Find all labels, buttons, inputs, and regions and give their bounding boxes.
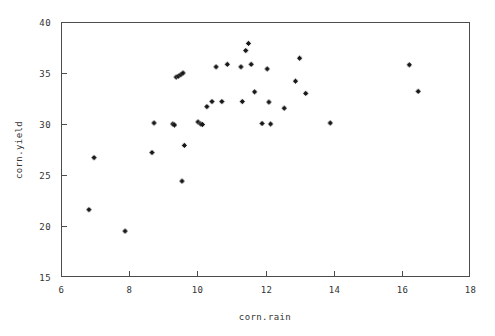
data-point (252, 89, 257, 94)
plot-canvas: 152025303540 681012141618 corn.rain corn… (0, 0, 495, 336)
data-point (407, 62, 412, 67)
data-point (182, 143, 187, 148)
data-point (172, 122, 177, 127)
data-point (303, 91, 308, 96)
y-tick-label: 40 (39, 18, 51, 28)
x-tick-label: 6 (59, 285, 65, 295)
data-point (293, 79, 298, 84)
x-tick-label: 8 (127, 285, 133, 295)
data-point (91, 155, 96, 160)
data-point (213, 64, 218, 69)
y-tick-label: 20 (39, 222, 51, 232)
y-axis-title: corn.yield (14, 121, 24, 179)
x-tick-label: 12 (261, 285, 273, 295)
data-point (416, 89, 421, 94)
data-point (243, 48, 248, 53)
data-point (204, 104, 209, 109)
data-point (149, 150, 154, 155)
plot-frame (62, 23, 470, 277)
y-tick-label: 35 (39, 69, 51, 79)
x-axis-tick-labels: 681012141618 (59, 285, 477, 295)
y-axis-tick-labels: 152025303540 (39, 18, 51, 283)
x-tick-label: 18 (465, 285, 477, 295)
y-tick-label: 15 (39, 273, 51, 283)
x-tick-label: 16 (397, 285, 409, 295)
x-axis-title: corn.rain (239, 312, 291, 322)
data-point (122, 229, 127, 234)
y-tick-label: 30 (39, 120, 51, 130)
data-point (240, 99, 245, 104)
data-point (268, 121, 273, 126)
data-point (209, 99, 214, 104)
data-point (200, 122, 205, 127)
data-point (225, 62, 230, 67)
data-point (219, 99, 224, 104)
data-point (259, 121, 264, 126)
data-point (266, 99, 271, 104)
data-point (246, 41, 251, 46)
data-points-group (86, 41, 420, 234)
data-point (249, 62, 254, 67)
data-point (179, 179, 184, 184)
x-tick-label: 10 (192, 285, 204, 295)
scatter-plot-figure: 152025303540 681012141618 corn.rain corn… (0, 0, 495, 336)
data-point (86, 207, 91, 212)
data-point (282, 106, 287, 111)
data-point (265, 66, 270, 71)
x-tick-label: 14 (329, 285, 341, 295)
data-point (151, 120, 156, 125)
y-tick-label: 25 (39, 171, 51, 181)
data-point (328, 120, 333, 125)
data-point (180, 70, 185, 75)
data-point (238, 64, 243, 69)
data-point (297, 56, 302, 61)
